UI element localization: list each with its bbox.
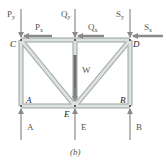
pin-A xyxy=(20,105,22,107)
pin-D xyxy=(129,39,131,41)
joint-label-B: B xyxy=(120,95,126,105)
pin-B xyxy=(129,105,131,107)
label-Sy: Sy xyxy=(116,9,124,20)
figure-caption: (b) xyxy=(70,147,81,157)
label-Qx: Qx xyxy=(88,22,98,33)
joint-label-D: D xyxy=(132,39,140,49)
reaction-label-E: E xyxy=(81,122,87,132)
pin-E xyxy=(74,105,76,107)
joint-label-A: A xyxy=(25,95,32,105)
label-Py: Py xyxy=(7,9,15,20)
pin-C xyxy=(20,39,22,41)
truss-diagram: Py Px Qy Qx Sy Sx W C D A B E A E B (b) xyxy=(0,0,166,161)
joint-label-E: E xyxy=(63,109,70,119)
pin-top-mid xyxy=(74,39,76,41)
reaction-label-A: A xyxy=(27,122,34,132)
joint-label-C: C xyxy=(10,39,17,49)
label-Sx: Sx xyxy=(144,22,152,33)
label-Px: Px xyxy=(35,22,43,33)
reaction-label-B: B xyxy=(136,122,142,132)
label-W: W xyxy=(82,65,91,75)
reaction-forces xyxy=(21,109,130,140)
label-Qy: Qy xyxy=(61,9,71,20)
